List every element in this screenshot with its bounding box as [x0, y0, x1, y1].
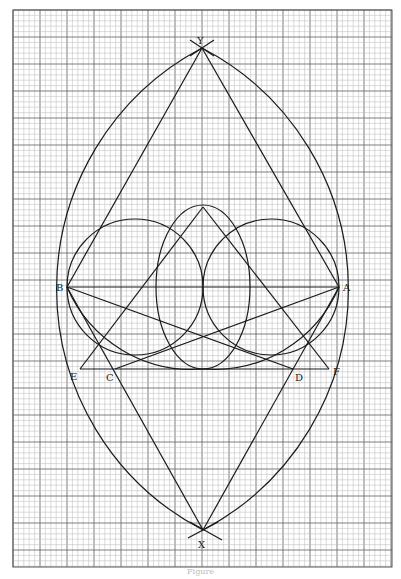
label-X: X: [198, 539, 206, 550]
label-D: D: [295, 372, 303, 383]
label-C: C: [106, 372, 114, 383]
line-D-B: [67, 287, 293, 369]
label-B: B: [56, 282, 63, 293]
geometry-figure: Y X B A E F C D: [0, 0, 401, 579]
arc-from-B: [67, 287, 203, 369]
line-Y-A: [202, 48, 339, 287]
label-F: F: [333, 366, 340, 377]
line-C-A: [115, 287, 339, 369]
label-Y: Y: [196, 35, 204, 46]
label-E: E: [70, 371, 77, 382]
arc-left-large: [57, 48, 203, 530]
line-Y-B: [67, 48, 202, 287]
figure-caption: Figure: [0, 567, 401, 576]
label-A: A: [342, 282, 351, 293]
